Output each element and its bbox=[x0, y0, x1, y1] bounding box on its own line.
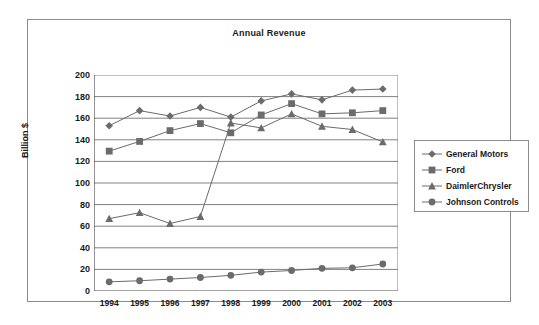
x-tick-2001: 2001 bbox=[313, 298, 332, 308]
y-tick-140: 140 bbox=[75, 135, 90, 145]
marker-diamond bbox=[197, 104, 205, 112]
marker-circle bbox=[288, 267, 295, 274]
marker-square bbox=[258, 112, 265, 119]
x-tick-1996: 1996 bbox=[161, 298, 180, 308]
marker-circle bbox=[197, 274, 204, 281]
x-tick-2002: 2002 bbox=[343, 298, 362, 308]
legend-item-ford[interactable]: Ford bbox=[421, 162, 465, 178]
marker-square bbox=[197, 120, 204, 127]
x-axis-tick-labels: 1994199519961997199819992000200120022003 bbox=[94, 298, 398, 316]
legend-item-johnson-controls[interactable]: Johnson Controls bbox=[421, 194, 519, 210]
marker-diamond bbox=[428, 150, 436, 158]
y-tick-20: 20 bbox=[80, 264, 90, 274]
legend-item-daimlerchrysler[interactable]: DaimlerChrysler bbox=[421, 178, 512, 194]
series-general-motors bbox=[105, 85, 386, 129]
legend-marker-circle-icon bbox=[421, 196, 443, 208]
marker-triangle bbox=[227, 119, 235, 126]
legend-label: General Motors bbox=[446, 149, 508, 159]
marker-square bbox=[429, 167, 436, 174]
series-johnson-controls bbox=[106, 261, 386, 286]
legend-marker-square-icon bbox=[421, 164, 443, 176]
y-tick-100: 100 bbox=[75, 178, 90, 188]
marker-square bbox=[288, 100, 295, 107]
series-line bbox=[109, 104, 383, 152]
x-tick-2000: 2000 bbox=[282, 298, 301, 308]
chart-legend: General MotorsFordDaimlerChryslerJohnson… bbox=[414, 140, 529, 212]
series-line bbox=[109, 114, 383, 224]
chart-figure: Annual Revenue Billion $ 200 180 160 140… bbox=[0, 0, 539, 325]
marker-square bbox=[106, 148, 113, 155]
x-tick-1999: 1999 bbox=[252, 298, 271, 308]
y-tick-60: 60 bbox=[80, 221, 90, 231]
marker-circle bbox=[136, 277, 143, 284]
marker-circle bbox=[429, 199, 436, 206]
chart-title: Annual Revenue bbox=[28, 28, 510, 38]
marker-diamond bbox=[105, 122, 113, 130]
legend-marker-triangle-icon bbox=[421, 180, 443, 192]
y-axis-tick-labels: 200 180 160 140 120 100 80 60 40 20 0 bbox=[64, 75, 90, 291]
legend-label: Ford bbox=[446, 165, 465, 175]
marker-diamond bbox=[379, 85, 387, 93]
marker-triangle bbox=[197, 212, 205, 219]
marker-diamond bbox=[257, 97, 265, 105]
series-ford bbox=[106, 100, 386, 154]
y-tick-80: 80 bbox=[80, 200, 90, 210]
marker-square bbox=[349, 109, 356, 116]
marker-circle bbox=[319, 265, 326, 272]
marker-triangle bbox=[379, 138, 387, 145]
marker-circle bbox=[167, 276, 174, 283]
chart-outer-frame: Annual Revenue Billion $ 200 180 160 140… bbox=[27, 19, 511, 302]
marker-diamond bbox=[349, 86, 357, 94]
y-tick-180: 180 bbox=[75, 92, 90, 102]
marker-square bbox=[319, 110, 326, 117]
y-axis-title: Billion $ bbox=[20, 123, 30, 158]
series-line bbox=[109, 89, 383, 126]
legend-label: DaimlerChrysler bbox=[446, 181, 512, 191]
series-line bbox=[109, 264, 383, 282]
plot-area bbox=[94, 75, 398, 291]
marker-triangle bbox=[288, 110, 296, 117]
x-tick-1997: 1997 bbox=[191, 298, 210, 308]
legend-marker-diamond-icon bbox=[421, 148, 443, 160]
y-tick-160: 160 bbox=[75, 113, 90, 123]
marker-circle bbox=[379, 261, 386, 268]
y-tick-120: 120 bbox=[75, 156, 90, 166]
y-tick-40: 40 bbox=[80, 243, 90, 253]
plot-svg bbox=[94, 75, 398, 291]
x-tick-2003: 2003 bbox=[373, 298, 392, 308]
x-tick-1994: 1994 bbox=[100, 298, 119, 308]
marker-triangle bbox=[318, 122, 326, 129]
legend-label: Johnson Controls bbox=[446, 197, 519, 207]
marker-triangle bbox=[136, 209, 144, 216]
marker-square bbox=[136, 138, 143, 145]
marker-circle bbox=[258, 269, 265, 276]
marker-circle bbox=[227, 272, 234, 279]
series-daimlerchrysler bbox=[105, 110, 386, 227]
marker-square bbox=[379, 107, 386, 114]
legend-item-general-motors[interactable]: General Motors bbox=[421, 146, 508, 162]
y-tick-200: 200 bbox=[75, 70, 90, 80]
marker-circle bbox=[349, 264, 356, 271]
marker-diamond bbox=[136, 107, 144, 115]
x-tick-1998: 1998 bbox=[221, 298, 240, 308]
marker-circle bbox=[106, 278, 113, 285]
y-tick-0: 0 bbox=[85, 286, 90, 296]
marker-diamond bbox=[318, 96, 326, 104]
marker-square bbox=[167, 127, 174, 134]
x-tick-1995: 1995 bbox=[130, 298, 149, 308]
